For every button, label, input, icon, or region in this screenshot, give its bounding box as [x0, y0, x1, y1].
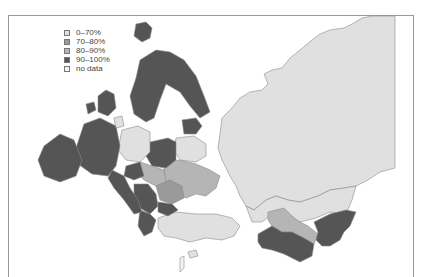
legend-label-no-data: no data	[76, 64, 103, 73]
region-turkey	[158, 212, 240, 242]
legend-label-0-70: 0–70%	[76, 28, 101, 37]
legend-label-80-90: 80–90%	[76, 46, 105, 55]
region-cyprus	[188, 250, 198, 258]
legend-label-90-100: 90–100%	[76, 55, 110, 64]
region-poland	[146, 138, 176, 168]
region-ireland	[86, 102, 96, 114]
region-uk	[98, 90, 116, 116]
legend-swatch-80-90	[64, 48, 70, 54]
legend-label-70-80: 70–80%	[76, 37, 105, 46]
legend-item-70-80: 70–80%	[64, 37, 110, 46]
region-russia	[218, 16, 395, 210]
legend-swatch-70-80	[64, 39, 70, 45]
legend-item-80-90: 80–90%	[64, 46, 110, 55]
region-germany	[118, 126, 150, 162]
region-benelux	[114, 116, 124, 128]
legend-item-no-data: no data	[64, 64, 110, 73]
region-france	[76, 118, 120, 176]
legend-swatch-90-100	[64, 57, 70, 63]
region-scandinavia	[130, 50, 210, 122]
legend-swatch-0-70	[64, 30, 70, 36]
region-austria	[124, 162, 144, 180]
legend-item-90-100: 90–100%	[64, 55, 110, 64]
map-legend: 0–70% 70–80% 80–90% 90–100% no data	[64, 28, 110, 73]
region-iceland	[134, 22, 152, 42]
region-iberia	[38, 134, 82, 182]
region-belarus	[174, 136, 206, 162]
region-baltics	[182, 118, 202, 134]
region-levant	[180, 256, 184, 272]
region-greece	[138, 210, 156, 236]
legend-swatch-no-data	[64, 66, 70, 72]
legend-item-0-70: 0–70%	[64, 28, 110, 37]
